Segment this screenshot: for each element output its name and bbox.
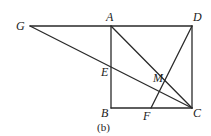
segment-AC xyxy=(111,26,192,108)
label-B: B xyxy=(101,106,109,120)
label-E: E xyxy=(100,65,109,79)
label-F: F xyxy=(142,109,151,123)
label-C: C xyxy=(193,106,202,120)
geometry-diagram: G A D E M B F C (b) xyxy=(0,0,211,136)
label-G: G xyxy=(16,19,25,33)
label-A: A xyxy=(105,10,114,24)
figure-caption: (b) xyxy=(97,121,110,134)
label-D: D xyxy=(192,10,202,24)
segment-DF xyxy=(151,26,192,108)
label-M: M xyxy=(152,71,164,85)
